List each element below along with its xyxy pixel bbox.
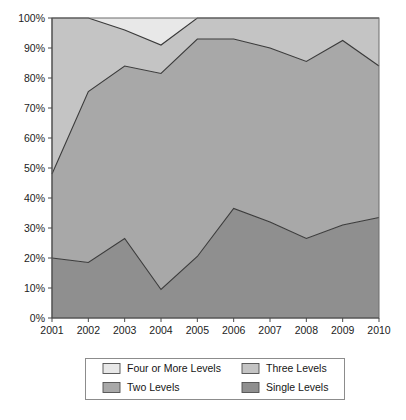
y-tick-label: 40% [24,192,45,204]
chart-legend: Four or More LevelsThree LevelsTwo Level… [86,359,345,400]
legend-swatch-single-levels [242,383,259,393]
x-tick-label: 2002 [77,324,101,336]
area-series-group [52,18,379,318]
x-tick-label: 2001 [40,324,64,336]
y-tick-label: 0% [30,312,45,324]
legend-label-four-or-more-levels: Four or More Levels [127,362,221,374]
x-tick-label: 2003 [113,324,137,336]
y-tick-label: 20% [24,252,45,264]
y-tick-label: 80% [24,72,45,84]
y-tick-label: 10% [24,282,45,294]
y-tick-label: 90% [24,42,45,54]
x-tick-label: 2010 [367,324,391,336]
x-tick-label: 2005 [186,324,210,336]
y-tick-label: 60% [24,132,45,144]
legend-label-single-levels: Single Levels [266,381,328,393]
legend-swatch-three-levels [242,364,259,374]
x-tick-label: 2006 [222,324,246,336]
legend-swatch-two-levels [103,383,120,393]
chart-canvas: 0%10%20%30%40%50%60%70%80%90%100% 200120… [0,0,406,420]
legend-label-three-levels: Three Levels [266,362,327,374]
y-tick-label: 70% [24,102,45,114]
x-tick-label: 2009 [331,324,355,336]
x-tick-label: 2007 [258,324,282,336]
x-tick-label: 2004 [149,324,173,336]
legend-label-two-levels: Two Levels [127,381,180,393]
y-tick-label: 100% [18,12,45,24]
x-tick-label: 2008 [295,324,319,336]
y-tick-label: 50% [24,162,45,174]
stacked-area-chart: 0%10%20%30%40%50%60%70%80%90%100% 200120… [0,0,406,420]
legend-swatch-four-or-more-levels [103,364,120,374]
y-tick-label: 30% [24,222,45,234]
